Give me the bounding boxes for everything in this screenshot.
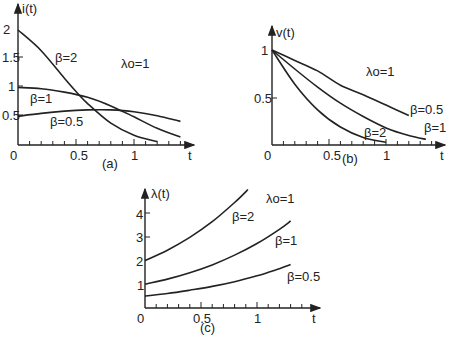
lambda0-annotation: λo=1 [266,191,295,206]
y-tick-label: 1 [8,79,15,94]
figure: i(t) 2 1.5 1 0.5 0 0.5 1 t (a) λo=1 β=2 … [0,0,450,341]
x-tick-label: 0.5 [323,148,341,163]
panel-c: λ(t) 4 3 2 1 0 0.5 1 t (c) λo=1 β=2 β=1 … [136,186,320,335]
origin-label: 0 [137,311,144,326]
x-tick-marks [156,302,302,308]
y-tick-label: 3 [136,230,143,245]
curves [272,50,426,142]
x-tick-label: 1 [131,148,138,163]
x-tick-label: 1 [383,148,390,163]
curve-05 [272,50,409,116]
series-label-beta2: β=2 [232,209,254,224]
x-axis-label: t [188,148,192,163]
lambda0-annotation: λo=1 [121,56,150,71]
y-axis-label: λ(t) [151,186,170,201]
curves [18,30,180,142]
panel-caption: (b) [342,151,358,166]
series-label-beta1: β=1 [275,233,297,248]
curve-05 [18,110,180,122]
x-axis-label: t [312,311,316,326]
lambda0-annotation: λo=1 [366,64,395,79]
panel-a: i(t) 2 1.5 1 0.5 0 0.5 1 t (a) λo=1 β=2 … [2,1,194,171]
y-tick-label: 1 [137,278,144,293]
series-label-beta1: β=1 [424,120,446,135]
origin-label: 0 [264,148,271,163]
curve-2 [18,30,157,142]
curve-05 [145,265,291,297]
series-label-beta05: β=0.5 [50,114,83,129]
panel-caption: (c) [200,320,215,335]
x-axis-label: t [440,148,444,163]
curve-1 [145,221,291,284]
y-tick-marks [18,57,23,115]
x-tick-marks [30,139,181,145]
y-tick-label: 0.5 [254,91,272,106]
origin-label: 0 [10,148,17,163]
y-axis-label: v(t) [276,25,295,40]
panel-caption: (a) [102,156,118,171]
series-label-beta05: β=0.5 [287,269,320,284]
x-tick-marks [283,139,431,145]
series-label-beta1: β=1 [30,91,52,106]
x-tick-label: 0.5 [70,148,88,163]
y-tick-label: 0.5 [2,108,20,123]
y-axis-label: i(t) [22,1,37,16]
series-label-beta2: β=2 [364,125,386,140]
y-tick-label: 4 [136,207,143,222]
y-tick-label: 1 [261,43,268,58]
series-label-beta2: β=2 [55,50,77,65]
series-label-beta05: β=0.5 [410,102,443,117]
y-tick-label: 1.5 [2,50,20,65]
figure-canvas: i(t) 2 1.5 1 0.5 0 0.5 1 t (a) λo=1 β=2 … [0,0,450,341]
y-tick-label: 2 [3,22,10,37]
panel-b: v(t) 1 0.5 0 0.5 1 t (b) λo=1 β=0.5 β=1 … [254,25,446,166]
curve-1 [272,50,426,139]
y-tick-label: 2 [136,254,143,269]
y-tick-marks [145,213,150,237]
x-tick-label: 1 [254,311,261,326]
